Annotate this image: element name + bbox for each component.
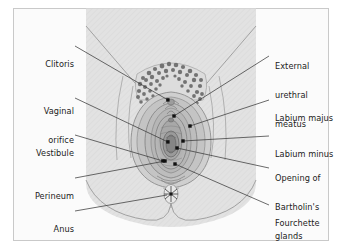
- label-bartholins-glands-line-1: Opening of: [275, 174, 339, 184]
- label-vestibule: Vestibule: [20, 130, 74, 178]
- marker-external-urethral-meatus: [172, 114, 175, 117]
- marker-perineum: [163, 159, 166, 162]
- urethral-meatus: [168, 118, 173, 122]
- anatomy-figure: Clitoris Vaginal orifice Vestibule Perin…: [0, 0, 342, 249]
- label-vaginal-orifice-line-1: Vaginal: [20, 107, 74, 117]
- label-fourchette-line-1: Fourchette: [275, 219, 339, 229]
- label-clitoris-line-1: Clitoris: [26, 60, 74, 70]
- label-clitoris: Clitoris: [26, 41, 74, 89]
- label-fourchette: Fourchette: [275, 200, 339, 248]
- label-vestibule-line-1: Vestibule: [20, 149, 74, 159]
- marker-clitoris: [166, 98, 169, 101]
- label-labium-majus-line-1: Labium majus: [275, 114, 341, 124]
- label-anus-line-1: Anus: [30, 225, 74, 235]
- vaginal-orifice: [163, 131, 179, 157]
- label-anus: Anus: [30, 206, 74, 249]
- label-perineum-line-1: Perineum: [20, 192, 74, 202]
- marker-labium-minus: [181, 139, 184, 142]
- marker-labium-majus: [188, 124, 191, 127]
- marker-fourchette: [173, 162, 176, 165]
- marker-bartholins-glands: [175, 146, 178, 149]
- label-external-urethral-meatus-line-1: External: [275, 62, 339, 72]
- anus: [164, 185, 178, 204]
- marker-vaginal-orifice: [166, 140, 169, 143]
